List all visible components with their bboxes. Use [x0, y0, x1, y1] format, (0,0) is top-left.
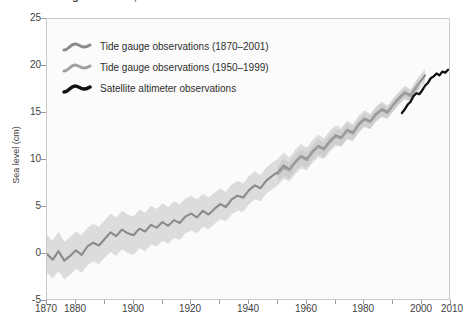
x-tick-label: 2000 — [410, 303, 432, 314]
y-axis-tick-labels: 25 20 15 10 5 0 -5 — [0, 0, 41, 333]
x-tick-label: 1880 — [64, 303, 86, 314]
y-tick-label: 0 — [1, 248, 41, 258]
x-axis-tick-labels: 1870 1880 1900 1920 1940 1960 1980 2000 … — [0, 303, 463, 323]
legend-label: Tide gauge observations (1870–2001) — [100, 41, 269, 52]
x-tick-label: 1980 — [352, 303, 374, 314]
legend-item: Tide gauge observations (1950–1999) — [62, 57, 342, 78]
legend-swatch-icon — [62, 82, 92, 96]
x-tick-label: 1940 — [237, 303, 259, 314]
legend-swatch-icon — [62, 40, 92, 54]
y-tick-label: 10 — [1, 154, 41, 164]
x-tick-label: 1870 — [35, 303, 57, 314]
y-tick-label: 5 — [1, 201, 41, 211]
y-tick-label: 25 — [1, 13, 41, 23]
legend-label: Satellite altimeter observations — [100, 83, 236, 94]
legend-item: Tide gauge observations (1870–2001) — [62, 36, 342, 57]
legend: Tide gauge observations (1870–2001) Tide… — [62, 36, 342, 99]
x-tick-label: 2010 — [441, 303, 463, 314]
legend-swatch-icon — [62, 61, 92, 75]
legend-item: Satellite altimeter observations — [62, 78, 342, 99]
y-tick-label: 15 — [1, 107, 41, 117]
x-tick-label: 1900 — [122, 303, 144, 314]
legend-label: Tide gauge observations (1950–1999) — [100, 62, 269, 73]
y-tick-label: 20 — [1, 60, 41, 70]
x-tick-label: 1960 — [295, 303, 317, 314]
x-tick-label: 1920 — [179, 303, 201, 314]
sea-level-chart-figure: Sea level (cm) 25 20 15 10 5 0 -5 — [0, 0, 463, 333]
uncertainty-band-series1 — [47, 69, 425, 280]
